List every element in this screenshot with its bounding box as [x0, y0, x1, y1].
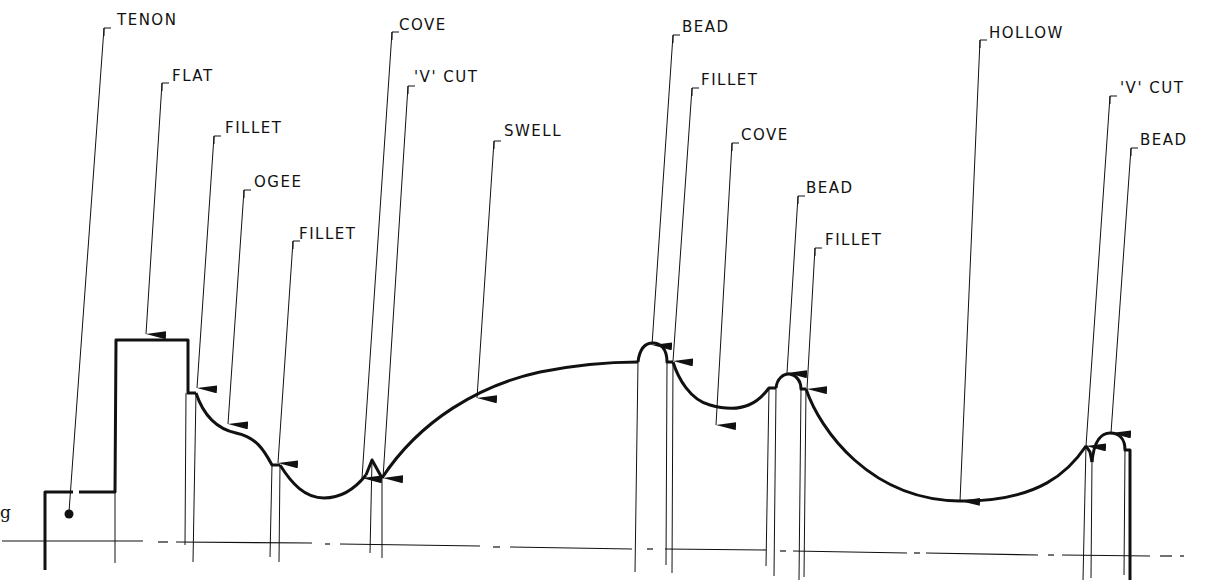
- leader-hook: [798, 196, 805, 204]
- leader-line-flat: [146, 83, 162, 334]
- turned-profile: [45, 340, 1130, 580]
- leader-line-hollow: [960, 40, 980, 501]
- leader-hook: [692, 88, 699, 96]
- leader-hook: [162, 83, 169, 91]
- leader-line-ogee: [228, 190, 244, 424]
- label-vcut1: 'V' CUT: [414, 70, 478, 85]
- label-bead1: BEAD: [682, 20, 730, 35]
- label-fillet2: FILLET: [299, 227, 356, 242]
- leader-hook: [815, 248, 822, 256]
- leader-hook: [104, 28, 111, 36]
- leader-hook: [732, 143, 739, 151]
- leader-hook: [673, 35, 680, 43]
- label-bead2: BEAD: [806, 181, 854, 196]
- label-hollow: HOLLOW: [989, 26, 1064, 41]
- leader-hook: [980, 40, 987, 48]
- leader-line-fillet1: [197, 136, 214, 388]
- label-fillet4: FILLET: [825, 233, 882, 248]
- leader-hook: [392, 32, 399, 40]
- centerline: [2, 541, 1184, 556]
- leader-line-bead1: [652, 35, 673, 345]
- leader-line-tenon: [69, 28, 104, 512]
- leader-hook: [1110, 96, 1117, 104]
- label-bead3: BEAD: [1140, 133, 1188, 148]
- leader-line-cove2: [716, 143, 732, 425]
- leader-line-swell: [477, 141, 494, 398]
- leader-hook: [244, 190, 251, 198]
- leader-line-fillet4: [807, 248, 815, 389]
- label-cove1: COVE: [399, 18, 447, 33]
- leader-hook: [214, 136, 221, 144]
- label-fillet3: FILLET: [701, 73, 758, 88]
- leader-lines: [69, 28, 1138, 512]
- leader-line-vcut2: [1086, 96, 1110, 446]
- label-flat: FLAT: [172, 69, 214, 84]
- label-ogee: OGEE: [254, 175, 302, 190]
- label-vcut2: 'V' CUT: [1120, 81, 1184, 96]
- label-cove2: COVE: [741, 128, 789, 143]
- leader-hook: [408, 86, 415, 94]
- extension-lines: [115, 362, 1125, 580]
- label-tenon: TENON: [117, 13, 177, 28]
- leader-line-fillet2: [278, 241, 293, 463]
- caption-fragment: g: [0, 502, 11, 522]
- profile-drawing: [0, 0, 1224, 586]
- leader-line-fillet3: [673, 88, 692, 361]
- label-fillet1: FILLET: [225, 121, 282, 136]
- leader-line-vcut1: [383, 86, 408, 478]
- leader-line-bead3: [1111, 148, 1131, 433]
- leader-line-bead2: [787, 196, 798, 373]
- turning-profile-diagram: TENONFLATFILLETOGEEFILLETCOVE'V' CUTSWEL…: [0, 0, 1224, 586]
- leader-hook: [1131, 148, 1138, 156]
- leader-hook: [494, 141, 501, 149]
- label-swell: SWELL: [504, 124, 562, 139]
